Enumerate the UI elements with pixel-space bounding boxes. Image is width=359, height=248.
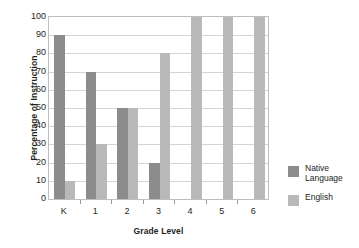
x-axis-tick-mark <box>80 200 81 204</box>
bar <box>149 163 160 199</box>
x-axis-tick-mark <box>111 200 112 204</box>
y-axis-tick-label: 0 <box>18 194 46 203</box>
gridline <box>49 90 268 91</box>
bar <box>86 72 97 199</box>
bar <box>128 108 139 199</box>
y-axis-tick-label: 50 <box>18 103 46 112</box>
y-axis-tick-label: 20 <box>18 158 46 167</box>
legend: Native LanguageEnglish <box>288 163 343 214</box>
plot-area <box>48 16 269 200</box>
gridline <box>49 126 268 127</box>
legend-swatch-icon <box>288 195 299 206</box>
x-axis-tick-label: K <box>49 206 79 216</box>
gridline <box>49 35 268 36</box>
bar <box>160 53 171 199</box>
x-axis-title: Grade Level <box>48 226 269 236</box>
bar <box>223 17 234 199</box>
bar <box>65 181 76 199</box>
bar <box>191 17 202 199</box>
bar-chart: Percentage of Instruction 10090807060504… <box>0 0 359 248</box>
x-axis-tick-label: 4 <box>175 206 205 216</box>
x-axis-tick-mark <box>174 200 175 204</box>
bar <box>96 144 107 199</box>
x-axis-tick-label: 3 <box>144 206 174 216</box>
y-axis-tick-label: 80 <box>18 48 46 57</box>
gridline <box>49 144 268 145</box>
legend-item: Native Language <box>288 163 343 183</box>
gridline <box>49 72 268 73</box>
y-axis-tick-label: 30 <box>18 139 46 148</box>
legend-swatch-icon <box>288 166 299 177</box>
x-axis-tick-label: 5 <box>207 206 237 216</box>
x-axis-tick-label: 1 <box>80 206 110 216</box>
legend-label: English <box>305 192 343 202</box>
y-axis-tick-label: 100 <box>18 12 46 21</box>
bar <box>54 35 65 199</box>
legend-label: Native Language <box>305 163 343 183</box>
y-axis-tick-label: 90 <box>18 30 46 39</box>
legend-item: English <box>288 192 343 205</box>
x-axis-tick-label: 2 <box>112 206 142 216</box>
y-axis-tick-label: 70 <box>18 67 46 76</box>
x-axis-tick-mark <box>237 200 238 204</box>
x-axis-tick-label: 6 <box>238 206 268 216</box>
x-axis-tick-mark <box>206 200 207 204</box>
x-axis-tick-mark <box>143 200 144 204</box>
y-axis-tick-label: 10 <box>18 176 46 185</box>
y-axis-tick-label: 40 <box>18 121 46 130</box>
gridline <box>49 108 268 109</box>
gridline <box>49 53 268 54</box>
bar <box>117 108 128 199</box>
bar <box>254 17 265 199</box>
y-axis-tick-label: 60 <box>18 85 46 94</box>
